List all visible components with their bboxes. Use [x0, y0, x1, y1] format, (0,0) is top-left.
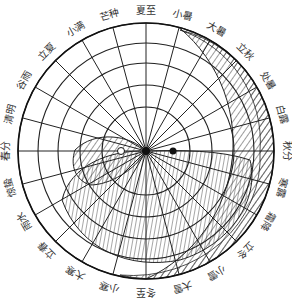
center-hub: [142, 147, 150, 155]
solar-terms-taiji-diagram: 夏至小暑大暑立秋处暑白露秋分寒露霜降立冬小雪大雪冬至小寒大寒立春雨水惊蛰春分清明…: [0, 0, 292, 301]
solar-term-label: 小满: [64, 19, 87, 39]
solar-term-label: 立冬: [235, 240, 258, 263]
solar-term-label: 谷雨: [14, 69, 34, 92]
solar-term-label: 秋分: [282, 141, 293, 161]
solar-term-label: 清明: [1, 103, 18, 125]
solar-term-label: 霜降: [258, 210, 278, 233]
solar-term-label: 小寒: [98, 279, 120, 296]
solar-term-label: 白露: [274, 103, 291, 125]
solar-term-label: 大寒: [64, 263, 87, 283]
grid-ray: [146, 27, 179, 151]
solar-term-label: 春分: [0, 141, 11, 161]
solar-term-label: 处暑: [258, 69, 278, 92]
solar-term-label: 小雪: [205, 263, 228, 283]
solar-term-label: 芒种: [98, 6, 120, 23]
yang-eye-dot: [118, 148, 125, 155]
grid-ray: [113, 27, 146, 151]
solar-term-label: 立春: [35, 240, 58, 263]
solar-term-label: 大雪: [171, 279, 193, 296]
solar-term-label: 立夏: [35, 40, 58, 63]
solar-term-label: 惊蛰: [1, 176, 18, 198]
solar-term-label: 大暑: [205, 18, 228, 38]
yin-eye-dot: [170, 148, 177, 155]
grid-ray: [82, 40, 146, 151]
solar-term-label: 冬至: [136, 287, 156, 299]
solar-term-label: 寒露: [274, 176, 291, 198]
solar-term-label: 小暑: [171, 7, 193, 23]
grid-ray: [146, 40, 210, 151]
solar-term-label: 夏至: [136, 5, 156, 16]
solar-term-label: 立秋: [235, 40, 258, 63]
solar-term-label: 雨水: [14, 210, 34, 233]
grid-ray: [146, 60, 237, 151]
